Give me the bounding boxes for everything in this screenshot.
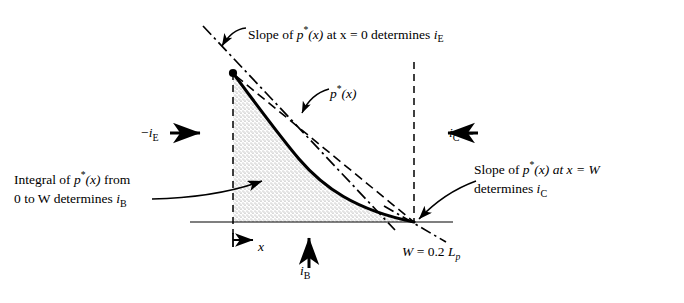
right-caption-function: p	[523, 162, 530, 177]
collector-current-trailing: —	[459, 125, 473, 140]
left-caption-line2-text: 0 to W determines	[14, 191, 116, 206]
curve-origin-dot	[229, 69, 237, 77]
leader-top-caption	[222, 28, 246, 46]
collector-current-label: iC—	[449, 124, 473, 146]
base-current-label: iB	[300, 262, 310, 284]
right-caption: Slope of p*(x) at x = W determines iC	[474, 155, 600, 202]
emitter-current-label: −iE	[141, 124, 159, 146]
tangent-line-at-xW	[384, 206, 446, 242]
curve-label: p*(x)	[330, 80, 357, 102]
top-caption-middle: at x = 0 determines	[323, 27, 433, 42]
left-caption-arg: (x)	[86, 172, 101, 187]
x-dimension-arrow	[233, 233, 253, 247]
top-caption-function: p	[297, 27, 304, 42]
curve-label-arg: (x)	[342, 86, 357, 101]
emitter-current-subscript: E	[152, 132, 158, 143]
left-caption-suffix: from	[101, 172, 131, 187]
right-caption-suffix: at x = W	[549, 162, 599, 177]
right-caption-line2: determines iC	[474, 179, 600, 203]
leader-right-caption	[419, 181, 476, 219]
right-caption-line2-text: determines	[474, 181, 537, 196]
base-width-equals: =	[417, 244, 425, 259]
top-caption: Slope of p*(x) at x = 0 determines iE	[248, 21, 444, 47]
leader-curve-label	[302, 89, 329, 113]
top-caption-arg: (x)	[308, 27, 323, 42]
curve-label-function: p	[330, 86, 337, 101]
left-caption-prefix: Integral of	[14, 172, 74, 187]
right-caption-line1: Slope of p*(x) at x = W	[474, 155, 600, 179]
left-caption-line2: 0 to W determines iB	[14, 189, 130, 213]
right-caption-current-sub: C	[540, 187, 547, 198]
right-caption-arg: (x)	[534, 162, 549, 177]
left-caption-line1: Integral of p*(x) from	[14, 165, 130, 189]
base-width-symbol: W	[402, 244, 413, 259]
left-caption-current-sub: B	[120, 197, 127, 208]
base-current-subscript: B	[304, 270, 311, 281]
top-caption-prefix: Slope of	[248, 27, 297, 42]
right-caption-prefix: Slope of	[474, 162, 523, 177]
left-caption: Integral of p*(x) from 0 to W determines…	[14, 165, 130, 212]
x-axis-label: x	[258, 238, 264, 255]
base-width-value: 0.2	[428, 244, 445, 259]
figure-container: Slope of p*(x) at x = 0 determines iE In…	[0, 0, 684, 303]
left-caption-function: p	[74, 172, 81, 187]
x-axis-symbol: x	[258, 239, 264, 254]
base-width-label: W = 0.2 Lp	[402, 243, 460, 265]
emitter-current-sign: −	[141, 125, 149, 140]
top-caption-current-sub: E	[437, 33, 443, 44]
base-width-unit-subscript: p	[455, 251, 460, 262]
